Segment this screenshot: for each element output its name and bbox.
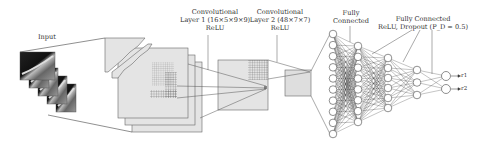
fc1-label-line1: Fully — [333, 9, 369, 17]
conv1-label-line1: Convolutional — [180, 8, 250, 16]
input-label: Input — [38, 33, 56, 41]
neuron — [329, 130, 337, 138]
neuron — [329, 52, 337, 60]
neuron — [413, 79, 421, 87]
neuron — [329, 64, 337, 72]
neuron — [329, 108, 337, 116]
conv2-feature-map — [218, 60, 268, 110]
conv1-label: Convolutional Layer 1 (16×5×9×9) ReLU — [180, 8, 250, 32]
fc2-label: Fully Connected ReLU, Dropout (P_D = 0.5… — [378, 15, 468, 31]
neuron — [329, 30, 337, 38]
fc2-label-line1: Fully Connected — [378, 15, 468, 23]
neuron — [354, 53, 362, 61]
conv2-label-line2: Layer 2 (48×7×7) — [248, 16, 312, 24]
neuron — [329, 86, 337, 94]
neuron — [384, 74, 392, 82]
fc-connections — [333, 34, 446, 134]
neuron — [354, 96, 362, 104]
neuron — [384, 64, 392, 72]
neuron — [413, 91, 421, 99]
neuron — [329, 97, 337, 105]
neuron — [354, 75, 362, 83]
conv2-label-line1: Convolutional — [248, 8, 312, 16]
fc2-label-line2: ReLU, Dropout (P_D = 0.5) — [378, 23, 468, 31]
output-arrows — [451, 75, 461, 91]
block-to-fc-lines — [311, 34, 330, 134]
neuron — [354, 118, 362, 126]
neuron — [329, 75, 337, 83]
neuron — [354, 86, 362, 94]
neuron — [354, 64, 362, 72]
conv2-label: Convolutional Layer 2 (48×7×7) ReLU — [248, 8, 312, 32]
conv1-label-line3: ReLU — [180, 24, 250, 32]
conv2-label-line3: ReLU — [248, 24, 312, 32]
input-image-stack — [20, 52, 76, 112]
neuron — [354, 107, 362, 115]
neuron — [354, 42, 362, 50]
neuron — [384, 84, 392, 92]
neuron — [384, 54, 392, 62]
fc1-label-line2: Connected — [333, 17, 369, 25]
conv1-label-line2: Layer 1 (16×5×9×9) — [180, 16, 250, 24]
neuron — [442, 85, 451, 94]
fc1-label: Fully Connected — [333, 9, 369, 25]
output-label-r2: r2 — [461, 85, 467, 91]
neuron — [384, 104, 392, 112]
neuron — [442, 72, 451, 81]
fc-neurons — [329, 30, 450, 138]
neuron — [329, 119, 337, 127]
conv1-feature-maps — [105, 38, 202, 132]
neuron — [384, 94, 392, 102]
neuron — [413, 66, 421, 74]
neuron — [329, 41, 337, 49]
output-label-r1: r1 — [461, 72, 467, 78]
